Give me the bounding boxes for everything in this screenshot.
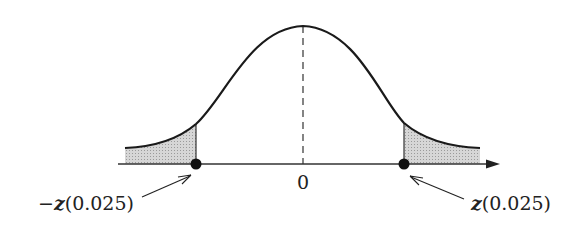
- right-pointer-arrow-icon: [410, 176, 464, 199]
- axis-arrowhead-icon: [486, 160, 500, 169]
- center-zero-label: 0: [297, 171, 309, 193]
- left-critical-label: −z(0.025): [38, 192, 134, 214]
- right-critical-point: [399, 159, 410, 170]
- left-pointer-arrow-icon: [142, 175, 191, 197]
- left-tail-region: [125, 124, 196, 164]
- left-critical-point: [191, 159, 202, 170]
- right-critical-label: z(0.025): [470, 192, 551, 214]
- normal-distribution-diagram: 0 −z(0.025) z(0.025): [0, 0, 581, 229]
